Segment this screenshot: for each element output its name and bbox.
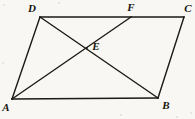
vertex-dot-a [11, 98, 12, 99]
paper-speck-2 [120, 114, 122, 116]
vertex-dot-f [130, 16, 131, 17]
vertex-dot-e [86, 47, 88, 49]
segments-group [12, 17, 184, 99]
segment-AF [12, 17, 131, 99]
vertex-dot-c [183, 16, 184, 17]
side-AD [12, 17, 40, 99]
vertex-label-e: E [92, 41, 99, 52]
geometry-figure: ABCDEF [0, 0, 195, 119]
vertex-label-f: F [127, 2, 134, 13]
side-AB [12, 98, 158, 99]
diagonal-DB [40, 17, 158, 98]
paper-speck-4 [2, 62, 4, 64]
paper-speck-0 [3, 4, 5, 6]
paper-speck-5 [58, 2, 60, 4]
vertex-label-b: B [162, 100, 169, 111]
paper-speck-3 [176, 116, 178, 118]
vertex-dot-b [157, 97, 158, 98]
vertex-label-c: C [184, 3, 191, 14]
side-BC [158, 17, 184, 98]
vertex-dots-group [11, 16, 184, 99]
paper-speck-1 [190, 112, 192, 114]
vertex-dot-d [39, 16, 40, 17]
vertex-label-a: A [2, 102, 9, 113]
vertex-label-d: D [28, 3, 36, 14]
